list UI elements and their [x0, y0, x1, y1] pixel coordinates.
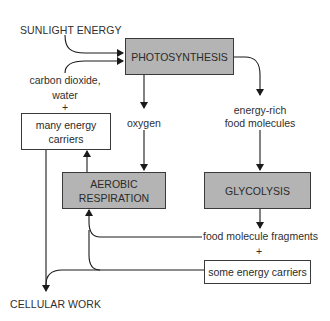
energy-rich-text: energy-rich — [210, 104, 310, 117]
plus-sign-bottom: + — [256, 245, 262, 258]
carbon-dioxide-water-label: carbon dioxide, water + — [24, 74, 106, 114]
some-energy-carriers-box: some energy carriers — [204, 260, 311, 284]
food-molecule-fragments-label: food molecule fragments — [203, 230, 318, 243]
glycolysis-label: GLYCOLYSIS — [225, 184, 290, 198]
energy-rich-food-label: energy-rich food molecules — [210, 104, 310, 130]
glycolysis-box: GLYCOLYSIS — [204, 172, 311, 209]
photosynthesis-box: PHOTOSYNTHESIS — [125, 38, 234, 75]
some-energy-carriers-label: some energy carriers — [208, 265, 307, 279]
many-energy-carriers-box: many energy carriers — [21, 113, 111, 150]
carriers-text: carriers — [48, 132, 83, 146]
carbon-dioxide-text: carbon dioxide, — [24, 74, 106, 87]
many-energy-text: many energy — [36, 118, 97, 132]
sunlight-energy-label: SUNLIGHT ENERGY — [20, 24, 122, 37]
oxygen-label: oxygen — [127, 117, 161, 130]
photosynthesis-label: PHOTOSYNTHESIS — [131, 50, 228, 64]
aerobic-respiration-box: AEROBIC RESPIRATION — [62, 172, 166, 209]
aerobic-text: AEROBIC — [90, 177, 137, 191]
respiration-text: RESPIRATION — [79, 191, 149, 205]
food-molecules-text: food molecules — [210, 117, 310, 130]
cellular-work-label: CELLULAR WORK — [10, 298, 101, 311]
